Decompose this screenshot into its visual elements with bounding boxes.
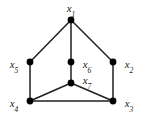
vertex-label-x6: x6 xyxy=(83,59,92,70)
vertex-label-x3: x3 xyxy=(125,98,134,109)
vertex-label-x5: x5 xyxy=(10,59,19,70)
graph-vertex-x5 xyxy=(27,59,34,66)
graph-vertex-x7 xyxy=(68,80,75,87)
graph-edge-x1-x5 xyxy=(30,20,71,62)
vertex-label-subscript-x3: 3 xyxy=(130,105,134,114)
vertex-label-subscript-x1: 1 xyxy=(72,10,76,19)
vertex-label-x7: x7 xyxy=(83,75,92,86)
vertex-label-x2: x2 xyxy=(125,59,134,70)
graph-diagram: x1x2x3x4x5x6x7 xyxy=(0,0,147,120)
vertex-label-subscript-x5: 5 xyxy=(15,66,19,75)
vertex-label-subscript-x2: 2 xyxy=(130,66,134,75)
graph-edge-x1-x2 xyxy=(71,20,113,62)
vertex-label-subscript-x4: 4 xyxy=(15,105,19,114)
graph-vertex-x2 xyxy=(110,59,117,66)
vertex-label-x1: x1 xyxy=(67,3,76,14)
vertex-label-x4: x4 xyxy=(10,98,19,109)
graph-vertex-x4 xyxy=(27,98,34,105)
vertex-label-subscript-x7: 7 xyxy=(88,82,92,91)
graph-edge-x7-x4 xyxy=(30,83,71,101)
graph-edge-x7-x3 xyxy=(71,83,113,101)
vertex-label-subscript-x6: 6 xyxy=(88,66,92,75)
graph-vertex-x6 xyxy=(68,59,75,66)
graph-vertex-x3 xyxy=(110,98,117,105)
